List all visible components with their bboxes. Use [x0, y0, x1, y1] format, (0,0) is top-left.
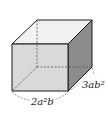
- front-face: [12, 44, 68, 91]
- cuboid-diagram: 2a²b 3ab²: [0, 0, 108, 119]
- label-right-bottom: 3ab²: [82, 79, 105, 90]
- label-front-bottom: 2a²b: [30, 96, 54, 107]
